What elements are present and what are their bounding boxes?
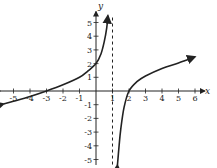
y-tick-label: 3	[87, 46, 92, 55]
x-tick-label: 4	[159, 94, 164, 103]
curve-right-branch	[117, 57, 195, 165]
y-tick-label: 1	[87, 73, 92, 82]
x-tick-label: -3	[43, 94, 51, 103]
y-tick-label: -4	[84, 142, 92, 151]
y-tick-label: -1	[84, 101, 92, 110]
x-axis-label: x	[205, 86, 210, 96]
x-tick-label: 6	[192, 94, 197, 103]
y-tick-label: 5	[87, 19, 92, 28]
x-tick-label: 3	[143, 94, 148, 103]
axes	[0, 12, 205, 165]
curves	[4, 16, 195, 165]
graph: -5-4-3-2-1123456-5-4-3-2-112345 x y	[0, 0, 217, 168]
x-tick-label: -1	[76, 94, 84, 103]
y-tick-label: -5	[84, 156, 92, 165]
y-tick-label: -3	[84, 128, 92, 137]
y-tick-label: -2	[84, 114, 92, 123]
x-tick-label: 5	[176, 94, 181, 103]
x-tick-label: -2	[59, 94, 67, 103]
y-axis-label: y	[97, 1, 104, 11]
y-tick-label: 4	[87, 32, 92, 41]
